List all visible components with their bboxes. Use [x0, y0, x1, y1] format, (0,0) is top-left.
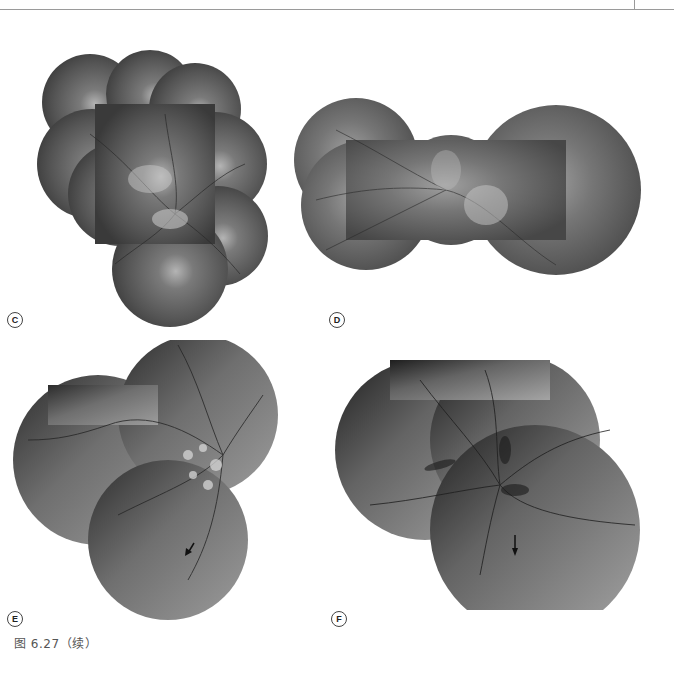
- page-header-rule: [0, 9, 674, 10]
- panel-c-fundus-montage: [20, 44, 270, 329]
- fundus-image-d: [286, 90, 642, 280]
- panel-d-fundus-montage: [286, 90, 642, 280]
- panel-label-c: C: [7, 312, 23, 328]
- panel-label-d: D: [329, 312, 345, 328]
- panel-label-f: F: [331, 611, 347, 627]
- fundus-image-e: [8, 340, 278, 622]
- fundus-image-f: [330, 360, 650, 610]
- panel-label-e: E: [7, 611, 23, 627]
- fundus-image-c: [20, 44, 270, 329]
- page-header-tick: [634, 0, 635, 9]
- panel-f-fundus-montage: [330, 360, 650, 610]
- figure-caption: 图 6.27（续）: [14, 634, 97, 651]
- panel-e-fundus-montage: [8, 340, 278, 622]
